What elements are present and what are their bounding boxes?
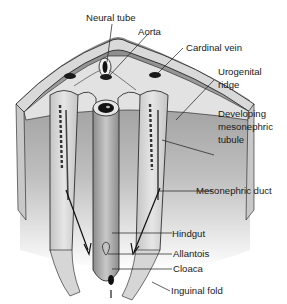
diagram-illustration bbox=[0, 0, 287, 304]
cardinal-vein-left bbox=[64, 73, 76, 79]
label-allantois: Allantois bbox=[173, 248, 209, 259]
label-neural-tube: Neural tube bbox=[86, 12, 136, 23]
label-mesonephric-duct: Mesonephric duct bbox=[196, 185, 272, 196]
label-aorta: Aorta bbox=[138, 26, 161, 37]
label-developing-line1: Developing bbox=[218, 108, 266, 119]
cloaca-shape bbox=[108, 275, 114, 285]
label-developing-line2: mesonephric bbox=[218, 121, 273, 132]
label-urogenital-ridge-line2: ridge bbox=[218, 79, 239, 90]
label-cardinal-vein: Cardinal vein bbox=[186, 42, 242, 53]
label-cloaca: Cloaca bbox=[173, 263, 203, 274]
embryo-diagram: Neural tube Aorta Cardinal vein Urogenit… bbox=[0, 0, 287, 304]
label-urogenital-ridge-line1: Urogenital bbox=[218, 66, 262, 77]
cardinal-vein-right bbox=[149, 72, 161, 78]
label-hindgut: Hindgut bbox=[172, 228, 205, 239]
label-inguinal-fold: Inguinal fold bbox=[171, 285, 223, 296]
label-developing-line3: tubule bbox=[218, 134, 244, 145]
